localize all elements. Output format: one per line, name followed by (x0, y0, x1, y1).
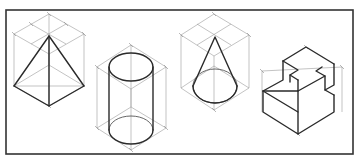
cone-figure (179, 12, 251, 112)
cylinder-figure (95, 43, 168, 152)
sketch-sheet: Pyramid Cylinder Cone Block with notches (0, 0, 360, 160)
drawing (0, 0, 360, 160)
pyramid-figure (12, 12, 86, 108)
notched-block-figure (260, 45, 344, 136)
